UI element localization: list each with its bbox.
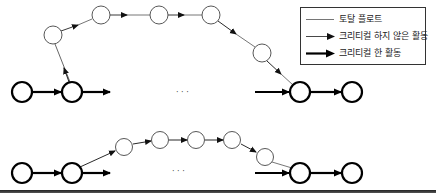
noncritical-node [44, 26, 62, 44]
noncritical-node [152, 132, 169, 149]
noncritical-node [188, 132, 205, 149]
noncritical-activity-arrow [64, 68, 69, 82]
bottom-divider [0, 190, 436, 193]
total-float-line [272, 162, 292, 168]
legend-item-critical: 크리티컬 한 활동 [301, 45, 425, 62]
critical-node [12, 163, 32, 183]
legend-label: 크리티컬 하지 않은 활동 [339, 31, 428, 41]
noncritical-node [202, 6, 220, 24]
noncritical-activity-arrow [241, 144, 256, 152]
noncritical-node [224, 132, 241, 149]
legend: 토탈 플로트 크리티컬 하지 않은 활동 크리티컬 한 활동 [300, 7, 426, 65]
critical-node [290, 163, 310, 183]
legend-label: 크리티컬 한 활동 [339, 48, 401, 58]
total-float-line [281, 74, 293, 85]
critical-node [342, 82, 362, 102]
total-float-line [78, 19, 92, 25]
plain-line-icon [306, 15, 336, 24]
critical-node [342, 163, 362, 183]
noncritical-node [150, 6, 168, 24]
noncritical-activity-arrow [80, 151, 115, 167]
noncritical-node [253, 44, 271, 62]
ellipsis: · · · [172, 167, 185, 176]
noncritical-activity-arrow [61, 25, 78, 31]
critical-node [12, 82, 32, 102]
ellipsis: · · · [176, 88, 189, 97]
legend-item-noncritical: 크리티컬 하지 않은 활동 [301, 28, 425, 45]
noncritical-activity-arrow [133, 141, 151, 144]
critical-node [62, 82, 82, 102]
bold-arrow-icon [306, 49, 336, 58]
legend-item-total-float: 토탈 플로트 [301, 11, 425, 28]
noncritical-activity-arrow [218, 21, 236, 34]
bottom-network: · · · [12, 132, 362, 184]
critical-node [290, 82, 310, 102]
noncritical-node [116, 139, 133, 156]
legend-label: 토탈 플로트 [339, 14, 382, 24]
total-float-line [236, 34, 255, 47]
thin-arrow-icon [306, 32, 336, 41]
noncritical-activity-arrow [267, 61, 281, 74]
noncritical-node [257, 149, 274, 166]
noncritical-node [92, 6, 110, 24]
noncritical-activity-edge [55, 44, 70, 82]
critical-node [62, 163, 82, 183]
